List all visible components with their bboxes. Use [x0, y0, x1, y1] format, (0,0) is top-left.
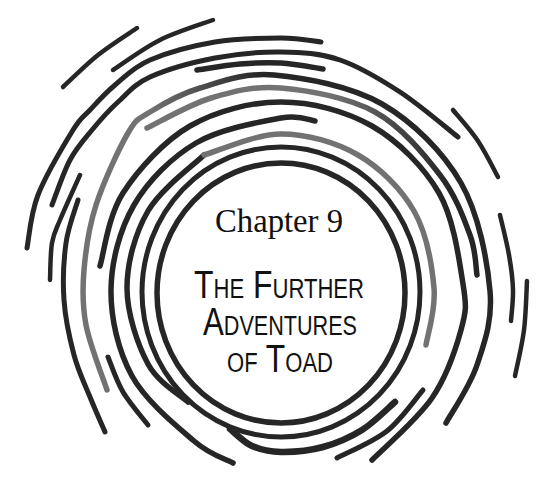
right-outer-arc-3	[515, 281, 527, 376]
ring-3-bottom-arc	[230, 402, 395, 452]
chapter-title-line-3: of Toad	[227, 337, 333, 380]
right-outer-arc-2	[500, 215, 513, 321]
ring-3-left-arc	[127, 155, 204, 402]
decorative-concentric-arcs	[27, 20, 527, 463]
title-block: Chapter 9 The Further Adventures of Toad	[194, 203, 364, 380]
chapter-ornament: Chapter 9 The Further Adventures of Toad	[0, 0, 557, 487]
top-short-dash	[197, 63, 323, 70]
chapter-number-label: Chapter 9	[215, 203, 343, 239]
chapter-title-page: Chapter 9 The Further Adventures of Toad	[0, 0, 557, 487]
right-outer-arc-1	[453, 110, 498, 177]
